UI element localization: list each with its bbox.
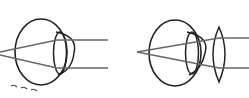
upper-ray [137, 38, 249, 52]
uncorrected-eye-panel [0, 19, 108, 91]
squiggle-mark [11, 85, 37, 91]
lower-ray [137, 52, 249, 68]
eye-diagram: ~ ~ ~ [0, 0, 249, 98]
eyeball-outline [149, 20, 201, 86]
corrected-eye-panel [137, 20, 249, 86]
eye-lens [186, 32, 199, 74]
diagram-svg [0, 0, 249, 98]
convex-lens-icon [213, 27, 225, 82]
